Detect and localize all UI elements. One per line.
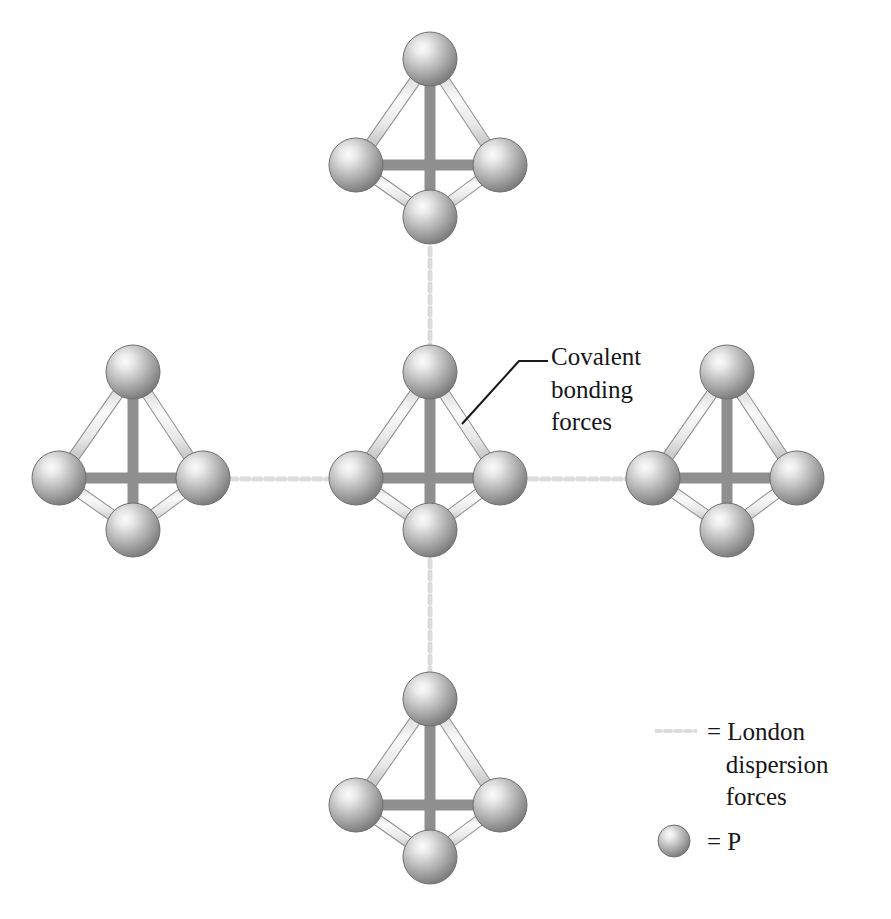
legend: = London dispersion forces = P: [651, 716, 891, 876]
p4-molecule-right: [626, 345, 824, 557]
p4-molecule-left: [32, 345, 230, 557]
legend-phosphorus-label: = P: [707, 828, 741, 856]
legend-london-dispersion-label: = London dispersion forces: [707, 716, 829, 814]
phosphorus-sphere-swatch-icon: [657, 824, 691, 858]
london-dispersion-swatch-icon: [655, 729, 697, 733]
covalent-label-leader-line: [462, 361, 548, 424]
p4-molecule-top: [329, 32, 527, 244]
covalent-bonding-forces-label: Covalent bonding forces: [551, 341, 641, 439]
p4-molecule-bottom: [329, 672, 527, 884]
figure-canvas: Covalent bonding forces = London dispers…: [0, 0, 891, 919]
p4-molecule-center: [329, 345, 527, 557]
